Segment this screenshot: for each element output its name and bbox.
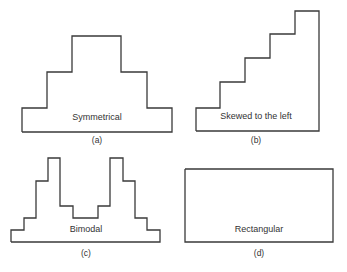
panel-d-caption: (d) xyxy=(254,248,264,258)
symmetrical-label: Symmetrical xyxy=(72,112,122,122)
rectangular-label: Rectangular xyxy=(235,224,284,234)
skewed-left-label: Skewed to the left xyxy=(220,111,292,121)
panel-a-caption: (a) xyxy=(92,135,102,145)
panel-b-caption: (b) xyxy=(251,135,261,145)
bimodal-label: Bimodal xyxy=(70,224,103,234)
panel-c-caption: (c) xyxy=(81,248,91,258)
shapes-canvas xyxy=(0,0,347,272)
histogram-shapes-diagram: Symmetrical (a) Skewed to the left (b) B… xyxy=(0,0,347,272)
